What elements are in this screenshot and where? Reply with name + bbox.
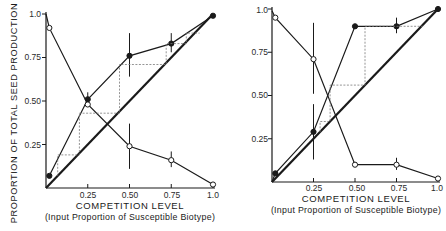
right-open-point <box>311 57 316 62</box>
left-x-tick-050: 0.50 <box>122 190 139 200</box>
right-x-tick-050: 0.50 <box>349 183 366 193</box>
right-x-axis-title: COMPETITION LEVEL <box>302 193 410 204</box>
right-x-tick-1: 1.0 <box>431 183 443 193</box>
right-chart: 1.0 0.75 0.50 0.25 0.25 0.50 0.75 1.0 CO… <box>251 5 443 215</box>
left-y-tick-1: 1.0 <box>29 9 41 19</box>
left-x-axis-title: COMPETITION LEVEL <box>76 200 184 211</box>
left-open-point <box>210 182 215 187</box>
right-y-tick-075: 0.75 <box>251 47 268 57</box>
right-open-point <box>352 162 357 167</box>
left-open-point <box>169 158 174 163</box>
plot-layer <box>42 6 441 188</box>
left-x-tick-025: 0.25 <box>80 190 97 200</box>
right-filled-point <box>352 24 357 29</box>
left-x-axis-subtitle: (Input Proportion of Susceptible Biotype… <box>45 212 215 222</box>
right-identity-line <box>272 9 438 182</box>
left-open-point <box>127 144 132 149</box>
right-y-tick-1: 1.0 <box>256 5 268 15</box>
left-open-point <box>47 25 52 30</box>
right-open-point <box>435 176 440 181</box>
left-y-tick-025: 0.25 <box>24 140 41 150</box>
right-filled-point <box>311 129 316 134</box>
left-filled-point <box>127 53 132 58</box>
left-open-point <box>85 102 90 107</box>
right-x-tick-075: 0.75 <box>391 183 408 193</box>
right-x-axis-subtitle: (Input Proportion of Susceptible Biotype… <box>271 205 441 215</box>
left-x-tick-1: 1.0 <box>207 190 219 200</box>
competition-charts: PROPORTION OF TOTAL SEED PRODUCTION 1.0 … <box>0 0 446 231</box>
left-y-axis-title: PROPORTION OF TOTAL SEED PRODUCTION <box>9 3 19 224</box>
left-y-tick-075: 0.75 <box>24 52 41 62</box>
left-y-tick-050: 0.50 <box>24 96 41 106</box>
left-filled-point <box>47 173 52 178</box>
right-open-point <box>394 162 399 167</box>
left-chart: PROPORTION OF TOTAL SEED PRODUCTION 1.0 … <box>9 3 219 224</box>
right-open-point <box>273 15 278 20</box>
right-y-tick-025: 0.25 <box>251 134 268 144</box>
left-x-tick-075: 0.75 <box>164 190 181 200</box>
right-x-tick-025: 0.25 <box>306 183 323 193</box>
right-y-tick-050: 0.50 <box>251 90 268 100</box>
